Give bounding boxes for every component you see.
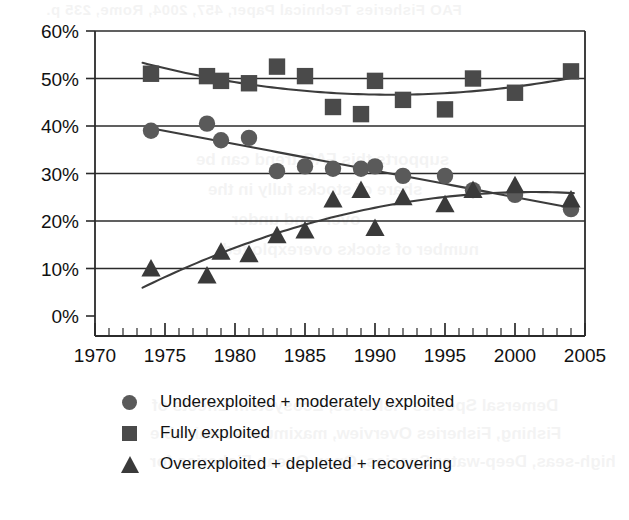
- data-point: [563, 63, 579, 79]
- data-point: [269, 58, 285, 74]
- y-tick-label-50: 50%: [41, 69, 79, 90]
- x-tick-label-1980: 1980: [214, 345, 256, 366]
- data-point: [239, 245, 258, 263]
- data-point: [393, 188, 412, 206]
- legend-item-overexploited[interactable]: Overexploited + depleted + recovering: [118, 448, 578, 479]
- data-point: [353, 161, 369, 177]
- data-point: [297, 68, 313, 84]
- x-tick-label-1985: 1985: [284, 345, 326, 366]
- y-tick-label-60: 60%: [41, 21, 79, 42]
- data-point: [325, 161, 341, 177]
- data-point: [143, 123, 159, 139]
- data-point: [437, 101, 453, 117]
- data-point: [241, 130, 257, 146]
- y-tick-label-30: 30%: [41, 164, 79, 185]
- x-tick-label-2005: 2005: [564, 345, 606, 366]
- data-point: [213, 132, 229, 148]
- legend-label-fully-exploited: Fully exploited: [160, 423, 270, 443]
- data-point: [395, 168, 411, 184]
- x-tick-label-1975: 1975: [144, 345, 186, 366]
- legend-label-underexploited: Underexploited + moderately exploited: [160, 392, 454, 412]
- data-point: [395, 92, 411, 108]
- x-ticks-group: [95, 323, 585, 336]
- data-markers-group: [141, 58, 580, 283]
- data-point: [199, 68, 215, 84]
- x-tick-label-1995: 1995: [424, 345, 466, 366]
- data-point: [367, 158, 383, 174]
- data-point: [367, 73, 383, 89]
- data-point: [505, 176, 524, 194]
- y-tick-label-10: 10%: [41, 259, 79, 280]
- data-point: [141, 259, 160, 277]
- data-point: [325, 99, 341, 115]
- y-ticks-group: [86, 31, 95, 316]
- y-tick-labels: 0%10%20%30%40%50%60%: [41, 21, 79, 327]
- square-marker-icon: [118, 423, 144, 443]
- data-point: [507, 85, 523, 101]
- gridlines-group: [95, 31, 585, 269]
- data-point: [353, 106, 369, 122]
- y-tick-label-40: 40%: [41, 116, 79, 137]
- x-tick-label-1990: 1990: [354, 345, 396, 366]
- triangle-marker-icon: [118, 454, 144, 474]
- x-tick-labels: 19701975198019851990199520002005: [74, 345, 606, 366]
- data-point: [199, 115, 215, 131]
- y-tick-label-0: 0%: [52, 306, 80, 327]
- chart-figure: 0%10%20%30%40%50%60% 1970197519801985199…: [0, 0, 629, 520]
- data-point: [323, 190, 342, 208]
- data-point: [241, 75, 257, 91]
- data-point: [269, 163, 285, 179]
- plot-area: 0%10%20%30%40%50%60% 1970197519801985199…: [0, 0, 629, 380]
- x-tick-label-1970: 1970: [74, 345, 116, 366]
- data-point: [143, 66, 159, 82]
- data-point: [213, 73, 229, 89]
- data-point: [465, 70, 481, 86]
- legend-label-overexploited: Overexploited + depleted + recovering: [160, 454, 452, 474]
- data-point: [351, 181, 370, 199]
- legend-item-fully-exploited[interactable]: Fully exploited: [118, 417, 578, 448]
- x-tick-label-2000: 2000: [494, 345, 536, 366]
- data-point: [297, 158, 313, 174]
- circle-marker-icon: [118, 392, 144, 412]
- data-point: [437, 168, 453, 184]
- legend-item-underexploited[interactable]: Underexploited + moderately exploited: [118, 386, 578, 417]
- chart-legend: Underexploited + moderately exploited Fu…: [118, 386, 578, 479]
- y-tick-label-20: 20%: [41, 211, 79, 232]
